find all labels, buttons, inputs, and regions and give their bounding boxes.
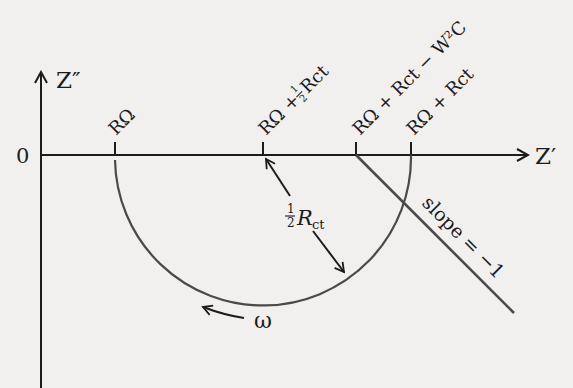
x-axis-label: Z′ [535,143,556,169]
radius-label-den: 2 [287,216,295,230]
slope-label: slope = −1 [418,191,509,282]
tick-label-rct: Rct [296,60,333,97]
omega-arrow [203,307,244,318]
y-axis-label: Z″ [56,67,81,93]
radius-arrow-up [266,159,290,196]
tick-label-rs: RΩ [104,104,139,139]
semicircle-curve [115,155,411,305]
tick-label-rs-half-rct: RΩ + 1 2 Rct [253,58,334,139]
nyquist-diagram: Z″ Z′ 0 RΩ RΩ + 1 2 Rct RΩ + Rct − W²C R… [0,0,573,388]
slope-line [356,155,514,313]
radius-label-sub: ct [312,217,325,232]
omega-label: ω [254,308,272,333]
radius-label-R: R [296,206,313,230]
origin-label: 0 [16,144,29,168]
radius-label: 1 2 R ct [285,202,325,232]
radius-label-num: 1 [287,202,295,216]
radius-arrow-down [313,231,344,272]
